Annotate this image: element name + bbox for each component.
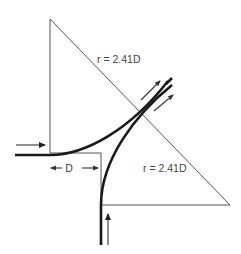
offset-corner-lines <box>50 153 101 205</box>
radius-label-lower: r = 2.41D <box>143 162 187 174</box>
merge-geometry-diagram: D r = 2.41D r = 2.41D <box>0 0 241 254</box>
horizontal-entry-path <box>15 81 168 155</box>
dimension-d: D <box>51 162 98 174</box>
radius-label-upper: r = 2.41D <box>97 53 141 65</box>
dimension-d-label: D <box>65 162 73 174</box>
